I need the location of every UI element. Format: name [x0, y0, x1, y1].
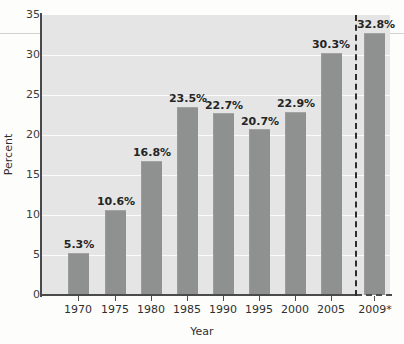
bar-1985[interactable]: [177, 107, 198, 295]
ytick-label-35: 35: [6, 10, 40, 20]
ytick-label-10: 10: [6, 210, 40, 220]
ytick-label-5: 5: [6, 250, 40, 260]
xtick-mark-1985: [187, 296, 188, 301]
xtick-mark-2005: [331, 296, 332, 301]
xtick-mark-2000: [295, 296, 296, 301]
bar-label-1990: 22.7%: [205, 99, 243, 112]
bar-label-1970: 5.3%: [64, 238, 95, 251]
bar-label-2009: 32.8%: [357, 18, 395, 31]
xtick-mark-1970: [78, 296, 79, 301]
bar-1970[interactable]: [68, 253, 89, 295]
bar-label-1980: 16.8%: [133, 146, 171, 159]
bar-label-1975: 10.6%: [97, 195, 135, 208]
x-axis-title: Year: [0, 325, 404, 338]
ytick-label-25: 25: [6, 90, 40, 100]
xtick-label-2000: 2000: [281, 303, 309, 316]
bar-1980[interactable]: [141, 161, 162, 295]
bar-2009[interactable]: [364, 33, 385, 295]
bar-label-1985: 23.5%: [169, 92, 207, 105]
bar-chart-figure: 5.3% 10.6% 16.8% 23.5% 22.7% 20.7% 22.9%…: [0, 0, 404, 344]
bar-2000[interactable]: [285, 112, 306, 295]
xtick-mark-1980: [151, 296, 152, 301]
xtick-label-1970: 1970: [64, 303, 92, 316]
bar-label-2000: 22.9%: [277, 97, 315, 110]
xtick-mark-1995: [259, 296, 260, 301]
ytick-label-0: 0: [6, 290, 40, 300]
xtick-label-2005: 2005: [317, 303, 345, 316]
bar-label-1995: 20.7%: [241, 115, 279, 128]
x-axis-line: [40, 294, 356, 296]
y-axis-title: Percent: [2, 134, 15, 175]
xtick-mark-1990: [223, 296, 224, 301]
xtick-label-1990: 1990: [209, 303, 237, 316]
xtick-label-1995: 1995: [245, 303, 273, 316]
xtick-label-1985: 1985: [173, 303, 201, 316]
xtick-label-2009: 2009*: [358, 303, 392, 316]
bar-1975[interactable]: [105, 210, 126, 295]
xtick-label-1975: 1975: [101, 303, 129, 316]
xtick-mark-2009: [374, 296, 375, 301]
y-axis-line: [40, 13, 42, 297]
bar-2005[interactable]: [321, 53, 342, 295]
projection-divider-line: [355, 15, 357, 296]
xtick-label-1980: 1980: [137, 303, 165, 316]
bar-label-2005: 30.3%: [312, 38, 350, 51]
xtick-mark-1975: [115, 296, 116, 301]
bar-1990[interactable]: [213, 113, 234, 295]
ytick-label-30: 30: [6, 50, 40, 60]
bar-1995[interactable]: [249, 129, 270, 295]
